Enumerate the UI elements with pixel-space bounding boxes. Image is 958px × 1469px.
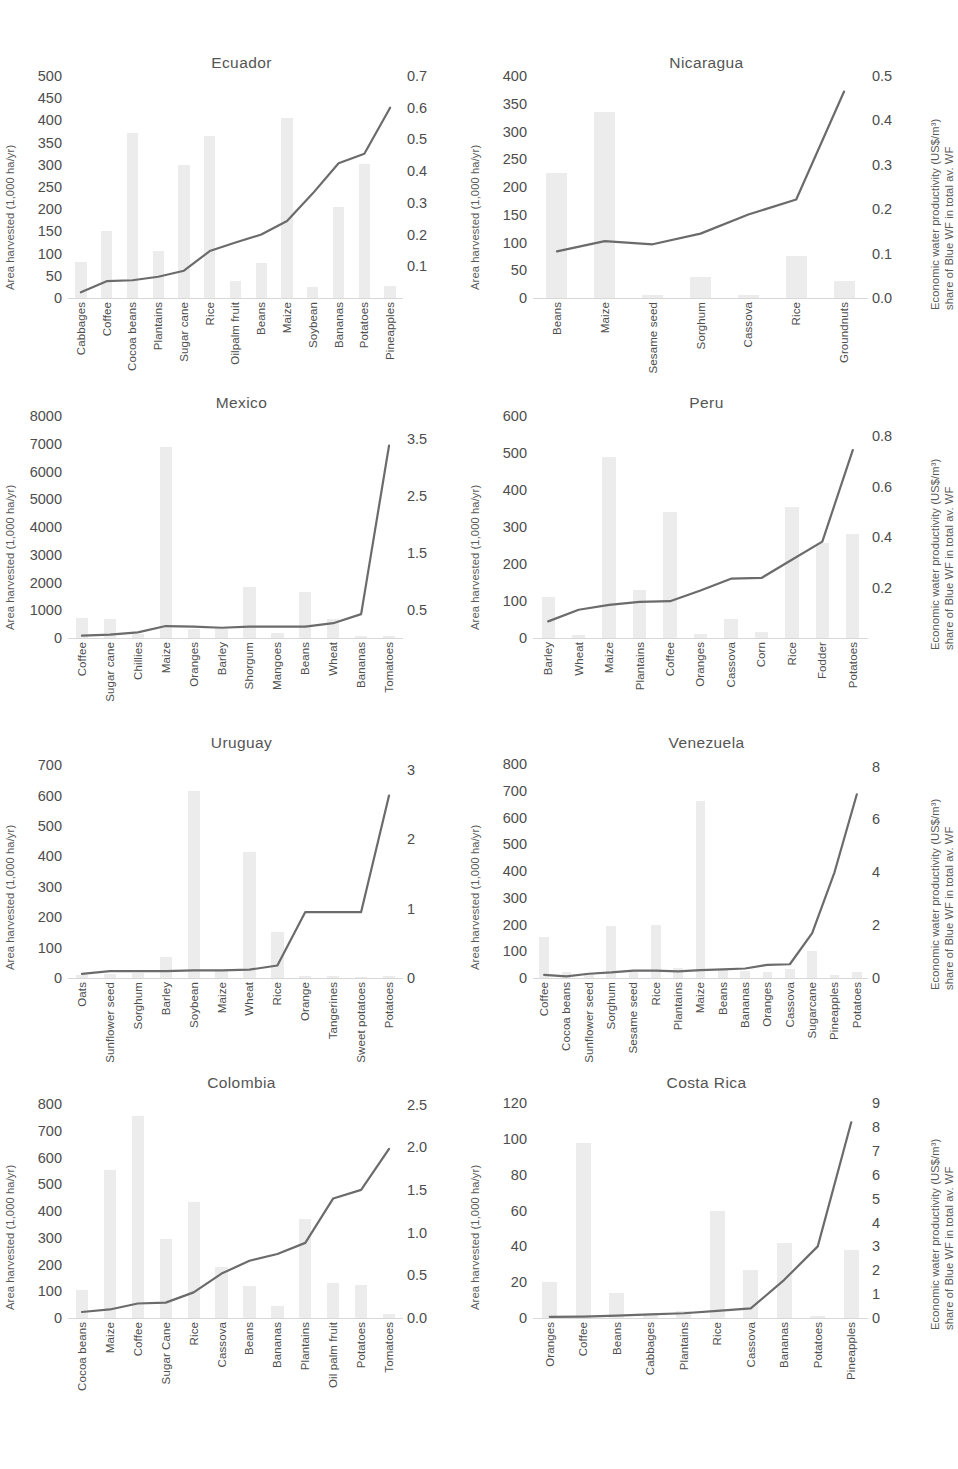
y-tick-right: 0.8 <box>872 429 892 444</box>
x-tick-label: Chillies <box>124 640 152 745</box>
x-tick-label: Oranges <box>533 1320 567 1425</box>
plot-canvas <box>68 416 403 639</box>
y-tick-left: 300 <box>503 520 527 535</box>
line-series <box>533 1096 868 1318</box>
y-tick-right: 6 <box>872 1168 880 1183</box>
y-tick-left: 0 <box>519 291 527 306</box>
y-axis-ticks-left: 0100200300400500600700800 <box>16 1096 62 1318</box>
chart-panel-colombia: ColombiaArea harvested (1,000 ha/yr)0100… <box>0 1072 465 1432</box>
plot-area: 01002003004005006007008000.00.51.01.52.0… <box>68 1096 403 1318</box>
y-tick-right: 1.5 <box>407 1183 427 1198</box>
x-tick-label-text: Tangerines <box>327 982 339 1039</box>
y-tick-left: 1000 <box>30 603 62 618</box>
y-tick-left: 100 <box>503 1132 527 1147</box>
y-tick-left: 120 <box>503 1096 527 1111</box>
x-axis-labels: CoffeeSugar caneChilliesMaizeOrangesBarl… <box>68 640 403 745</box>
line-path <box>557 92 844 252</box>
x-tick-label: Orange <box>291 980 319 1085</box>
x-tick-label: Plantains <box>667 1320 701 1425</box>
chart-panel-mexico: MexicoArea harvested (1,000 ha/yr)010002… <box>0 392 465 732</box>
y-axis-ticks-right: 0.20.40.60.8 <box>872 416 924 638</box>
x-tick-label-text: Soybean <box>307 302 319 348</box>
x-tick-label-text: Beans <box>299 642 311 675</box>
x-tick-label: Coffee <box>567 1320 601 1425</box>
chart-panel-peru: PeruArea harvested (1,000 ha/yr)Economic… <box>465 392 930 732</box>
panel-title: Venezuela <box>465 732 930 754</box>
x-tick-label-text: Beans <box>255 302 267 335</box>
x-tick-label: Rice <box>180 1320 208 1425</box>
y-tick-left: 50 <box>46 269 62 284</box>
y-tick-left: 5000 <box>30 492 62 507</box>
y-tick-left: 400 <box>38 849 62 864</box>
chart-panel-ecuador: EcuadorArea harvested (1,000 ha/yr)05010… <box>0 52 465 392</box>
x-axis-labels: CoffeeCocoa beansSunflower seedSorghumSe… <box>533 980 868 1085</box>
x-tick-label-text: Fodder <box>816 642 828 679</box>
x-tick-label-text: Maize <box>281 302 293 333</box>
y-tick-right: 3 <box>872 1239 880 1254</box>
x-tick-label: Pineapples <box>835 1320 869 1425</box>
y-tick-left: 500 <box>503 837 527 852</box>
x-tick-label: Potatoes <box>846 980 868 1085</box>
x-tick-label-text: Cassova <box>742 302 754 347</box>
x-tick-label: Cabbages <box>634 1320 668 1425</box>
x-tick-label: Tomatoes <box>375 640 403 745</box>
y-tick-left: 40 <box>511 1239 527 1254</box>
y-tick-left: 400 <box>503 864 527 879</box>
y-tick-right: 4 <box>872 1215 880 1230</box>
y-tick-right: 0.1 <box>872 246 892 261</box>
y-tick-left: 0 <box>54 971 62 986</box>
y-tick-right: 7 <box>872 1144 880 1159</box>
x-tick-label-text: Potatoes <box>851 982 863 1028</box>
y-axis-ticks-left: 050100150200250300350400450500 <box>16 76 62 298</box>
panel-title: Costa Rica <box>465 1072 930 1094</box>
x-tick-label: Groundnuts <box>820 300 868 405</box>
y-tick-right: 9 <box>872 1096 880 1111</box>
x-tick-label-text: Wheat <box>573 642 585 676</box>
x-tick-label-text: Plantains <box>152 302 164 350</box>
y-tick-right: 0.5 <box>407 1268 427 1283</box>
x-tick-label: Maize <box>274 300 300 405</box>
plot-area: 0501001502002503003504000.00.10.20.30.40… <box>533 76 868 298</box>
y-tick-right: 2 <box>872 1263 880 1278</box>
x-tick-label: Cocoa beans <box>555 980 577 1085</box>
y-tick-left: 150 <box>503 208 527 223</box>
y-tick-left: 300 <box>503 124 527 139</box>
x-tick-label-text: Beans <box>611 1322 623 1355</box>
x-tick-label-text: Coffee <box>664 642 676 676</box>
y-tick-right: 0.4 <box>407 164 427 179</box>
y-tick-left: 0 <box>519 1311 527 1326</box>
x-tick-label-text: Oranges <box>188 642 200 687</box>
y-tick-right: 3.5 <box>407 432 427 447</box>
y-axis-ticks-left: 020406080100120 <box>481 1096 527 1318</box>
x-tick-label: Cabbages <box>68 300 94 405</box>
x-tick-label-text: Coffee <box>132 1322 144 1356</box>
y-axis-title-right: Economic water productivity (US$/m³)shar… <box>928 750 958 990</box>
x-axis-labels: Cocoa beansMaizeCoffeeSugar CaneRiceCass… <box>68 1320 403 1425</box>
x-tick-label: Potatoes <box>375 980 403 1085</box>
y-axis-ticks-right: 02468 <box>872 756 924 978</box>
x-tick-label: Soybean <box>300 300 326 405</box>
y-tick-left: 300 <box>38 880 62 895</box>
y-tick-right: 3 <box>407 763 415 778</box>
x-tick-label: Maize <box>208 980 236 1085</box>
x-tick-label: Bananas <box>263 1320 291 1425</box>
x-tick-label: Plantains <box>667 980 689 1085</box>
x-tick-label: Sunflower seed <box>96 980 124 1085</box>
x-tick-label-text: Bananas <box>355 642 367 688</box>
x-tick-label-text: Beans <box>551 302 563 335</box>
panel-title: Uruguay <box>0 732 465 754</box>
line-series <box>533 416 868 638</box>
line-path <box>82 1149 389 1312</box>
panel-title: Ecuador <box>0 52 465 74</box>
x-axis-labels: OrangesCoffeeBeansCabbagesPlantainsRiceC… <box>533 1320 868 1425</box>
y-tick-left: 500 <box>503 446 527 461</box>
y-tick-left: 300 <box>503 891 527 906</box>
x-tick-label-text: Tomatoes <box>383 642 395 693</box>
x-tick-label: Potatoes <box>351 300 377 405</box>
x-tick-label: Maize <box>152 640 180 745</box>
y-tick-right: 0.0 <box>407 1311 427 1326</box>
y-tick-left: 400 <box>503 69 527 84</box>
y-tick-left: 3000 <box>30 548 62 563</box>
line-series <box>68 76 403 298</box>
y-axis-title-right: Economic water productivity (US$/m³)shar… <box>928 70 958 310</box>
